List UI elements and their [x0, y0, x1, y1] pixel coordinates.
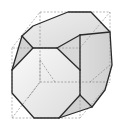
- truncated-cube-diagram: [0, 0, 121, 129]
